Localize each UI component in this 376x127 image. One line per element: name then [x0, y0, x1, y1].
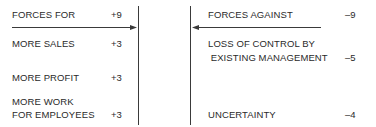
forces-for-header-label: FORCES FOR — [12, 9, 75, 20]
force-against-label-line-2: EXISTING MANAGEMENT — [208, 52, 328, 63]
force-for-label: MORE SALES — [12, 38, 75, 49]
arrow-left-icon — [192, 25, 321, 30]
arrow-right-icon — [12, 25, 137, 30]
forces-for-header-value: +9 — [111, 9, 122, 20]
forces-against-header-value: –9 — [345, 9, 356, 20]
force-against-value: –5 — [345, 52, 356, 63]
force-for-value: +3 — [111, 38, 122, 49]
force-against-value: –4 — [345, 109, 356, 120]
force-against-label-line-1: LOSS OF CONTROL BY — [208, 38, 315, 49]
force-for-label-line-1: MORE WORK — [12, 96, 74, 107]
force-for-label-line-2: FOR EMPLOYEES — [12, 109, 95, 120]
force-for-value: +3 — [111, 72, 122, 83]
force-against-label: UNCERTAINTY — [208, 109, 276, 120]
force-for-value: +3 — [111, 109, 122, 120]
forces-against-header-label: FORCES AGAINST — [208, 9, 293, 20]
force-for-label: MORE PROFIT — [12, 72, 79, 83]
